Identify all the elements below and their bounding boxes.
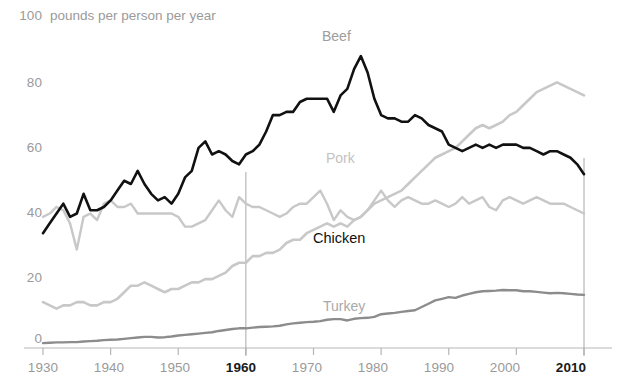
- series-line-pork: [43, 191, 584, 250]
- chart-plot-area: [0, 0, 622, 389]
- meat-consumption-chart: 100 pounds per person per year 80 60 40 …: [0, 0, 622, 389]
- series-line-turkey: [43, 290, 584, 343]
- series-lines: [43, 56, 584, 343]
- reference-lines: [246, 158, 584, 356]
- axis-tick-marks: [43, 348, 584, 355]
